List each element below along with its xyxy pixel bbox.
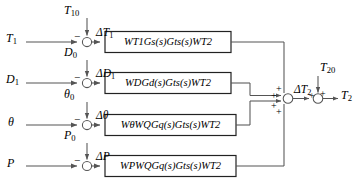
row4-summing-junction: [82, 161, 91, 170]
row3-input-label: θ: [8, 116, 14, 130]
main-summing-junction: [283, 94, 293, 104]
row4-block-label: WPWQGq(s)Gts(s)WT2: [105, 161, 236, 172]
row2-block-label: WDGd(s)Gts(s)WT2: [105, 78, 231, 89]
row4-reference-label: P0: [64, 129, 76, 143]
row1-minus-sign: −: [74, 31, 80, 42]
row2-summing-junction: [82, 78, 91, 87]
row1-input-label: T1: [6, 32, 17, 46]
bias-plus-left: +: [309, 91, 315, 101]
row1-reference-label: T10: [64, 4, 79, 18]
row1-block-label: WT1Gs(s)Gts(s)WT2: [105, 37, 231, 48]
bias-plus-top: +: [320, 89, 326, 99]
bias-input-label: T20: [320, 61, 335, 75]
row3-reference-label: θ0: [64, 88, 74, 102]
block-diagram: T1 T10 − ΔT1 WT1Gs(s)Gts(s)WT2 D1 D0 − Δ…: [0, 0, 360, 196]
row3-block-label: WθWQGq(s)Gts(s)WT2: [105, 120, 236, 131]
row2-reference-label: D0: [64, 46, 77, 60]
row3-summing-junction: [82, 120, 91, 129]
row4-input-label: P: [7, 157, 14, 171]
row4-minus-sign: −: [74, 155, 80, 166]
row3-minus-sign: −: [74, 114, 80, 125]
sum-plus-bottom: +: [276, 107, 282, 117]
row2-input-label: D1: [6, 73, 19, 87]
row2-minus-sign: −: [74, 72, 80, 83]
final-output-label: T2: [341, 89, 352, 103]
row1-summing-junction: [82, 37, 91, 46]
